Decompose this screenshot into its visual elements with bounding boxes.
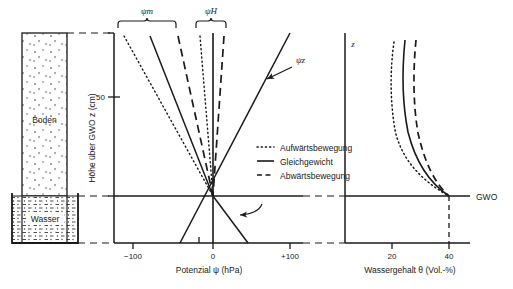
legend-label-equilibrium: Gleichgewicht	[280, 157, 334, 167]
gwo-label: GWO	[476, 192, 498, 202]
x-tick-label-plus100: +100	[281, 252, 300, 261]
soil-column-group: Boden	[22, 33, 67, 196]
left-plot-y-axis-title: Höhe über GWO z (cm)	[87, 93, 97, 182]
legend-label-upward: Aufwärtsbewegung	[280, 143, 353, 153]
x-tick-label-zero: 0	[211, 252, 216, 261]
canvas-background	[0, 0, 513, 289]
water-vessel-label: Wasser	[31, 214, 60, 224]
bracket-psih-label: ψH	[205, 6, 218, 16]
y-tick-label-50: 50	[96, 93, 105, 102]
x-tick-label-minus100: −100	[124, 252, 143, 261]
bracket-psim-label: ψm	[141, 6, 154, 16]
legend-label-downward: Abwärtsbewegung	[280, 171, 350, 181]
right-x-tick-label-40: 40	[445, 252, 454, 261]
right-plot-x-axis-title: Wassergehalt θ (Vol.-%)	[364, 265, 455, 275]
right-x-tick-label-20: 20	[388, 252, 397, 261]
right-plot-y-axis-title: z	[350, 39, 355, 49]
figure-container: Boden Wasser 50 Höhe über GWO z (cm)	[0, 0, 513, 289]
water-vessel-group: Wasser	[12, 193, 78, 243]
psiz-label: ψz	[296, 55, 306, 65]
soil-column-label: Boden	[32, 115, 57, 125]
soil-potential-diagram: Boden Wasser 50 Höhe über GWO z (cm)	[0, 0, 513, 289]
left-plot-x-axis-title: Potenzial ψ (hPa)	[176, 265, 243, 275]
